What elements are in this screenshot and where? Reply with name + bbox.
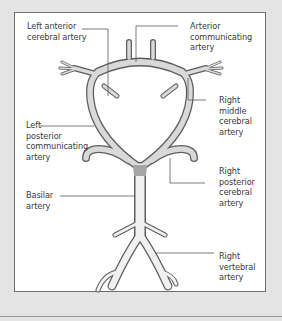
label-basilar-artery: Basilar artery — [26, 190, 53, 211]
label-right-posterior-cerebral-artery: Right posterior cerebral artery — [219, 166, 255, 208]
label-right-vertebral-artery: Right vertebral artery — [219, 251, 255, 283]
label-left-anterior-cerebral-artery: Left anterior cerebral artery — [27, 21, 87, 42]
label-anterior-communicating-artery: Arterior communicating artery — [190, 21, 252, 53]
label-left-posterior-communicating-artery: Left posterior communicating artery — [26, 120, 88, 162]
label-right-middle-cerebral-artery: Right middle cerebral artery — [219, 95, 252, 137]
